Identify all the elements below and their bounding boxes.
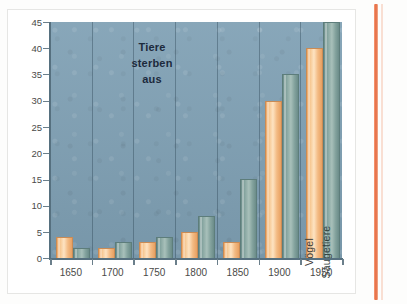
x-axis-tick [259,259,261,265]
x-axis-label-1800: 1800 [175,268,217,278]
x-axis-label-1700: 1700 [92,268,134,278]
x-axis-tick [133,259,135,265]
callout-line-1: Tiere [114,40,190,56]
y-axis-label: 15 [16,175,42,185]
bar-mammals-1650[interactable] [73,248,90,259]
bar-mammals-1850[interactable] [240,179,257,258]
bar-birds-1650[interactable] [56,237,73,258]
plot-area: Vögel Säugetiere Tiere sterben aus [50,22,342,258]
category-separator [217,22,218,258]
bar-birds-1850[interactable] [223,242,240,258]
bar-birds-1800[interactable] [181,232,198,258]
decorative-accent-rule [374,4,378,300]
bar-mammals-1950[interactable]: Säugetiere [323,22,340,258]
y-axis-label: 35 [16,70,42,80]
y-axis-label: 25 [16,123,42,133]
y-axis-label: 20 [16,149,42,159]
y-axis-label: 10 [16,201,42,211]
legend-label-birds: Vögel [303,238,315,266]
x-axis-tick [300,259,302,265]
x-axis-label-1650: 1650 [50,268,92,278]
bar-birds-1750[interactable] [139,242,156,258]
category-separator [300,22,301,258]
x-axis-tick [217,259,219,265]
bar-chart: 45 40 35 30 25 20 15 10 5 0 [14,14,350,290]
y-axis-line [49,22,51,259]
decorative-accent-rule-secondary [381,4,383,300]
chart-callout-title: Tiere sterben aus [114,40,190,88]
x-axis-tick [175,259,177,265]
y-axis-labels: 45 40 35 30 25 20 15 10 5 0 [14,14,42,267]
x-axis-label-1950: 1950 [300,268,342,278]
callout-line-2: sterben [114,56,190,72]
callout-line-3: aus [114,72,190,88]
category-separator [259,22,260,258]
bar-mammals-1700[interactable] [115,242,132,258]
x-axis-label-1900: 1900 [259,268,301,278]
bar-mammals-1750[interactable] [156,237,173,258]
bar-birds-1900[interactable] [265,101,282,258]
x-axis-tick [92,259,94,265]
x-axis-tick [50,259,52,265]
category-separator [92,22,93,258]
y-axis-label: 5 [16,228,42,238]
page-background: 45 40 35 30 25 20 15 10 5 0 [0,0,407,304]
x-axis-tick [342,259,344,265]
y-axis-label: 45 [16,18,42,28]
bar-mammals-1800[interactable] [198,216,215,258]
y-axis-label: 30 [16,96,42,106]
bar-mammals-1900[interactable] [282,74,299,258]
x-axis-label-1850: 1850 [217,268,259,278]
y-axis-label: 40 [16,44,42,54]
bar-birds-1700[interactable] [98,248,115,259]
y-axis-label: 0 [16,254,42,264]
x-axis-label-1750: 1750 [133,268,175,278]
